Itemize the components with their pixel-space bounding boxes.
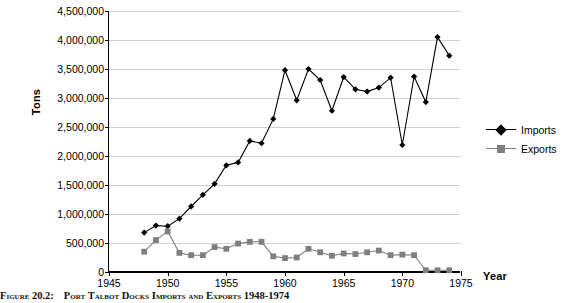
figure-chart-port-talbot-docks: Tons Year 0500,0001,000,0001,500,0002,00… [0, 0, 569, 303]
legend-item-imports: Imports [486, 120, 557, 139]
x-axis-title: Year [483, 270, 507, 282]
data-point-imports-1961 [294, 97, 300, 103]
legend-label-exports: Exports [521, 143, 557, 155]
data-point-imports-1964 [329, 108, 335, 114]
x-axis-tick-label: 1975 [449, 277, 472, 289]
data-point-imports-1959 [270, 116, 276, 122]
data-point-exports-1951 [177, 250, 183, 256]
legend-item-exports: Exports [486, 139, 557, 158]
series-line-imports [144, 37, 449, 233]
y-axis-tick-label: 3,500,000 [32, 63, 104, 75]
legend-label-imports: Imports [521, 124, 556, 136]
data-point-exports-1970 [399, 252, 405, 258]
y-axis-tick-label: 3,000,000 [32, 92, 104, 104]
data-point-imports-1957 [247, 138, 253, 144]
data-point-exports-1964 [329, 253, 335, 259]
data-point-exports-1968 [376, 248, 382, 254]
y-axis-tick-label: 4,500,000 [32, 5, 104, 17]
data-point-exports-1954 [212, 244, 218, 250]
data-point-imports-1949 [153, 223, 159, 229]
data-point-exports-1965 [341, 251, 347, 257]
y-axis-tick-label: 2,500,000 [32, 121, 104, 133]
data-point-imports-1972 [423, 99, 429, 105]
square-marker-icon [497, 145, 505, 153]
y-axis-tick-label: 2,000,000 [32, 150, 104, 162]
data-point-exports-1972 [423, 267, 429, 273]
data-point-imports-1960 [282, 67, 288, 73]
data-point-exports-1974 [446, 267, 452, 273]
data-point-imports-1955 [223, 162, 229, 168]
series-line-exports [144, 231, 449, 270]
data-point-exports-1955 [223, 246, 229, 252]
y-axis-tick-label: 500,000 [32, 237, 104, 249]
data-point-exports-1949 [153, 237, 159, 243]
data-point-imports-1974 [446, 53, 452, 59]
x-axis-tick-label: 1955 [215, 277, 238, 289]
caption-figure-number: Figure 20.2: [0, 290, 54, 301]
legend-key-imports [486, 124, 516, 136]
x-axis-tick [461, 271, 462, 276]
figure-caption: Figure 20.2:Port Talbot Docks Imports an… [0, 290, 289, 301]
data-point-imports-1948 [141, 229, 147, 235]
data-point-exports-1967 [364, 249, 370, 255]
data-point-exports-1957 [247, 239, 253, 245]
chart-legend: Imports Exports [486, 120, 557, 158]
data-point-imports-1958 [258, 140, 264, 146]
data-point-exports-1969 [388, 252, 394, 258]
x-axis-tick-label: 1945 [97, 277, 120, 289]
y-axis-tick-label: 0 [32, 266, 104, 278]
y-axis-tick-label: 1,500,000 [32, 179, 104, 191]
data-point-exports-1962 [306, 246, 312, 252]
y-axis-tick-label: 1,000,000 [32, 208, 104, 220]
data-point-imports-1973 [434, 34, 440, 40]
data-point-exports-1971 [411, 252, 417, 258]
plot-area: 0500,0001,000,0001,500,0002,000,0002,500… [108, 11, 460, 272]
data-point-exports-1948 [141, 249, 147, 255]
x-axis-tick-label: 1965 [332, 277, 355, 289]
data-point-imports-1971 [411, 73, 417, 79]
data-point-exports-1950 [165, 229, 171, 235]
data-point-imports-1956 [235, 159, 241, 165]
data-point-exports-1961 [294, 255, 300, 261]
data-point-exports-1973 [435, 267, 441, 273]
legend-key-exports [486, 143, 516, 155]
caption-text: Port Talbot Docks Imports and Exports 19… [64, 290, 289, 301]
data-point-imports-1950 [165, 223, 171, 229]
data-point-imports-1970 [399, 142, 405, 148]
x-axis-tick-label: 1950 [156, 277, 179, 289]
diamond-marker-icon [495, 124, 506, 135]
data-point-exports-1963 [317, 249, 323, 255]
data-point-exports-1959 [270, 253, 276, 259]
data-point-exports-1960 [282, 255, 288, 261]
data-point-exports-1956 [235, 241, 241, 247]
x-axis-tick-label: 1970 [391, 277, 414, 289]
data-point-imports-1967 [364, 89, 370, 95]
data-point-exports-1966 [353, 251, 359, 257]
data-point-exports-1958 [259, 239, 265, 245]
x-axis-tick-label: 1960 [273, 277, 296, 289]
data-series-group [109, 11, 461, 272]
data-point-exports-1952 [188, 252, 194, 258]
data-point-exports-1953 [200, 252, 206, 258]
y-axis-tick-label: 4,000,000 [32, 34, 104, 46]
